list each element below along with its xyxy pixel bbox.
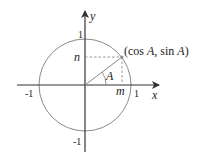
tick-y-neg: -1	[73, 136, 81, 147]
tick-x-neg: -1	[25, 88, 33, 99]
point-label: (cos A, sin A)	[124, 44, 189, 58]
angle-label: A	[105, 69, 114, 83]
projection-m-label: m	[116, 84, 125, 98]
projection-n-label: n	[74, 50, 80, 64]
radius-line	[85, 57, 122, 85]
tick-y-pos: 1	[78, 29, 83, 40]
x-axis-label: x	[151, 88, 158, 102]
unit-circle-diagram: y x 1 -1 -1 1 n m A (cos A, sin A)	[0, 0, 211, 158]
tick-x-pos: 1	[134, 88, 139, 99]
y-axis-label: y	[89, 9, 96, 23]
